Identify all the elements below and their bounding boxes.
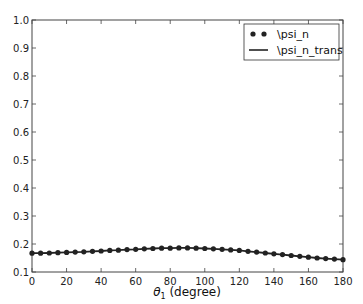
legend: \psi_n \psi_n_trans (244, 24, 343, 60)
x-tick-label: 120 (230, 276, 249, 287)
x-axis-label-unit: (degree) (166, 285, 221, 299)
y-tick-label: 0.1 (13, 267, 29, 278)
data-point-psi-n (47, 250, 52, 255)
data-point-psi-n (176, 245, 181, 250)
data-point-psi-n (280, 252, 285, 257)
data-point-psi-n (263, 250, 268, 255)
x-axis-label: θ1 (degree) (153, 285, 221, 301)
data-point-psi-n (116, 248, 121, 253)
data-point-psi-n (254, 250, 259, 255)
x-tick-label: 20 (60, 276, 73, 287)
data-point-psi-n (81, 249, 86, 254)
y-tick-label: 0.2 (13, 239, 29, 250)
data-point-psi-n (55, 250, 60, 255)
data-point-psi-n (315, 255, 320, 260)
y-tick-label: 0.4 (13, 183, 29, 194)
data-point-psi-n (220, 247, 225, 252)
data-point-psi-n (211, 246, 216, 251)
x-tick-label: 160 (299, 276, 318, 287)
data-point-psi-n (185, 245, 190, 250)
legend-marker-icon (261, 31, 266, 36)
y-tick-label: 0.9 (13, 43, 29, 54)
data-point-psi-n (332, 257, 337, 262)
y-tick-label: 0.7 (13, 99, 29, 110)
data-point-psi-n (159, 246, 164, 251)
x-tick-label: 180 (333, 276, 352, 287)
data-point-psi-n (133, 247, 138, 252)
data-point-psi-n (237, 248, 242, 253)
y-tick-label: 1.0 (13, 15, 29, 26)
data-point-psi-n (323, 256, 328, 261)
data-point-psi-n (340, 257, 345, 262)
data-point-psi-n (271, 251, 276, 256)
legend-label-psi-n: \psi_n (277, 28, 309, 41)
legend-label-psi-n-trans: \psi_n_trans (277, 44, 343, 57)
y-tick-label: 0.5 (13, 155, 29, 166)
data-point-psi-n (29, 251, 34, 256)
x-tick-label: 60 (129, 276, 142, 287)
data-point-psi-n (228, 247, 233, 252)
data-point-psi-n (124, 247, 129, 252)
data-point-psi-n (73, 250, 78, 255)
y-tick-label: 0.6 (13, 127, 29, 138)
data-point-psi-n (64, 250, 69, 255)
data-point-psi-n (306, 255, 311, 260)
x-tick-label: 140 (264, 276, 283, 287)
chart-canvas: 0.10.20.30.40.50.60.70.80.91.0 020406080… (0, 0, 363, 304)
data-point-psi-n (245, 249, 250, 254)
y-tick-label: 0.3 (13, 211, 29, 222)
x-tick-label: 0 (29, 276, 35, 287)
x-tick-label: 40 (95, 276, 108, 287)
data-point-psi-n (99, 248, 104, 253)
data-point-psi-n (38, 251, 43, 256)
y-tick-label: 0.8 (13, 71, 29, 82)
data-point-psi-n (107, 248, 112, 253)
data-point-psi-n (168, 246, 173, 251)
data-point-psi-n (194, 246, 199, 251)
data-point-psi-n (289, 253, 294, 258)
legend-marker-icon (250, 31, 255, 36)
data-point-psi-n (90, 249, 95, 254)
data-point-psi-n (150, 246, 155, 251)
data-point-psi-n (297, 254, 302, 259)
data-point-psi-n (202, 246, 207, 251)
data-point-psi-n (142, 246, 147, 251)
